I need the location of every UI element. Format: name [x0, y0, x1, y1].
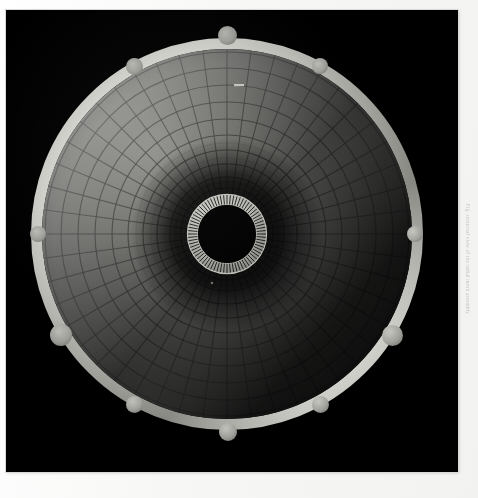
page-root: Fig. sectional view of the radial mesh a…: [0, 0, 478, 498]
figure-caption-text: Fig. sectional view of the radial mesh a…: [465, 204, 471, 314]
figure-caption: Fig. sectional view of the radial mesh a…: [459, 0, 477, 498]
polar-mesh-diagram: [6, 10, 458, 472]
dust-speck: [211, 282, 214, 285]
dish-stage: [6, 10, 458, 472]
radial-mesh-dish-photograph: [6, 10, 458, 472]
highlight-mark: [234, 84, 244, 86]
hub-bore: [198, 205, 256, 263]
